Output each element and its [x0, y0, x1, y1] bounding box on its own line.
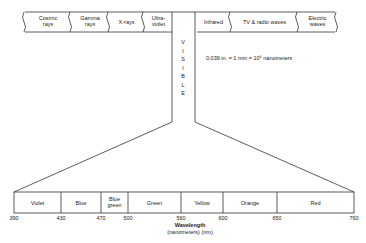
axis-label: Wavelength(nanometers) (nm): [160, 222, 220, 236]
band-yellow: Yellow: [181, 200, 223, 206]
band-orange: Orange: [223, 200, 277, 206]
band-green: Green: [128, 200, 181, 206]
segment-electric-waves: Electricwaves: [299, 15, 336, 27]
tick-600: 600: [218, 215, 227, 221]
segment-x-rays: X-rays: [110, 19, 143, 25]
tick-560: 560: [176, 215, 185, 221]
segment-cosmic-rays: Cosmicrays: [26, 15, 70, 27]
tick-760: 760: [349, 215, 358, 221]
conversion-note: 0.039 in. = 1 mm = 10⁶ nanometers: [206, 55, 292, 61]
tick-430: 430: [56, 215, 65, 221]
segment-gamma-rays: Gammarays: [72, 15, 108, 27]
band-blue: Blue: [61, 200, 101, 206]
band-red: Red: [277, 200, 354, 206]
tick-650: 650: [272, 215, 281, 221]
tick-470: 470: [96, 215, 105, 221]
visible-label: V I S I B L E: [178, 38, 188, 98]
band-blue-green: Bluegreen: [101, 196, 128, 208]
spectrum-diagram: [0, 0, 366, 243]
segment-tv-radio: TV & radio waves: [232, 19, 297, 25]
segment-infrared: Infrared: [197, 19, 230, 25]
tick-390: 390: [9, 215, 18, 221]
band-violet: Violet: [14, 200, 61, 206]
tick-500: 500: [123, 215, 132, 221]
segment-ultraviolet: Ultra-violet: [145, 15, 172, 27]
